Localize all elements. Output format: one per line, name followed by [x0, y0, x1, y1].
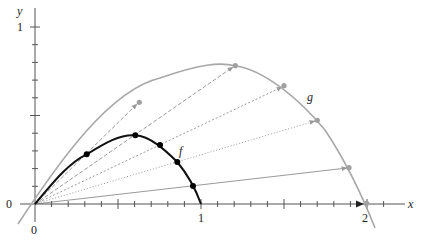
curve-f-label: f: [179, 144, 184, 158]
f-point: [132, 132, 138, 138]
origin-y-label: 0: [6, 197, 12, 211]
g-point: [315, 118, 320, 123]
diagram-canvas: y 1 0 0 1 2 x f g: [0, 0, 423, 248]
g-point: [137, 100, 142, 105]
g-point: [346, 165, 351, 170]
x-ticks: [52, 199, 384, 209]
f-point: [174, 159, 180, 165]
g-points: [137, 63, 370, 206]
origin-x-label: 0: [31, 223, 37, 237]
g-point: [233, 63, 238, 68]
curve-f: [35, 135, 201, 204]
f-point: [190, 183, 196, 189]
y-axis-label: y: [16, 4, 23, 18]
x-tick-label-2: 2: [362, 211, 368, 225]
f-point: [84, 151, 90, 157]
g-point: [364, 201, 369, 206]
x-axis-label: x: [407, 197, 414, 211]
axes: [20, 8, 405, 222]
f-points: [84, 132, 196, 189]
f-point: [157, 142, 163, 148]
curve-g: [18, 64, 375, 228]
g-point: [281, 83, 286, 88]
x-axis-arrowhead: [356, 201, 364, 208]
x-tick-label-1: 1: [198, 211, 204, 225]
y-tick-label-1: 1: [17, 20, 23, 34]
curve-g-label: g: [307, 90, 313, 104]
